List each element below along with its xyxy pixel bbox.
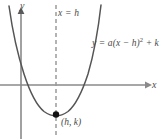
y-axis-label: y	[20, 1, 24, 11]
x-axis	[0, 82, 152, 89]
axis-of-symmetry-label: x = h	[58, 9, 79, 19]
parabola-curve	[9, 5, 101, 116]
equation-tail: + k	[143, 38, 159, 48]
vertex-label: (h, k)	[61, 118, 81, 128]
equation-main: y = a(x − h)	[92, 38, 140, 48]
vertex-point-marker	[53, 111, 59, 117]
figure-canvas	[0, 0, 165, 139]
parabola-equation-label: y = a(x − h)2 + k	[92, 39, 159, 49]
parabola-vertex-form-figure: y x x = h y = a(x − h)2 + k (h, k)	[0, 0, 165, 139]
x-axis-arrow-icon	[145, 82, 152, 89]
x-axis-label: x	[152, 80, 156, 90]
